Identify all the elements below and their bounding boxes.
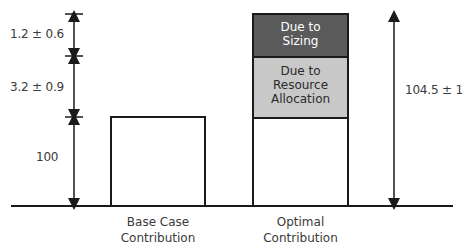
base-value-label: 100 [36, 150, 58, 164]
allocation-delta-label: 3.2 ± 0.9 [10, 80, 64, 94]
optimal-line1: Optimal [248, 214, 353, 230]
base-case-line1: Base Case [106, 214, 210, 230]
allocation-segment-label: Due to Resource Allocation [253, 64, 348, 106]
sizing-label-line2: Sizing [253, 34, 348, 48]
base-case-bar [111, 117, 205, 206]
optimal-base-segment [253, 118, 348, 206]
optimal-line2: Contribution [248, 230, 353, 246]
total-value-label: 104.5 ± 1 [405, 83, 463, 97]
sizing-delta-label: 1.2 ± 0.6 [10, 27, 64, 41]
diagram-canvas [0, 0, 473, 252]
base-case-line2: Contribution [106, 230, 210, 246]
optimal-category-label: Optimal Contribution [248, 214, 353, 246]
sizing-label-line1: Due to [253, 20, 348, 34]
allocation-label-line2: Resource [253, 78, 348, 92]
sizing-segment-label: Due to Sizing [253, 20, 348, 48]
allocation-label-line3: Allocation [253, 92, 348, 106]
allocation-label-line1: Due to [253, 64, 348, 78]
base-case-category-label: Base Case Contribution [106, 214, 210, 246]
